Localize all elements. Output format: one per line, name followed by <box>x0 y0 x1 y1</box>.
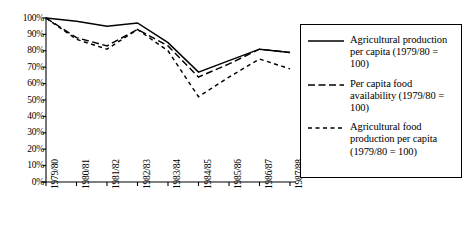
x-axis-tick-label: 1985/86 <box>233 159 243 189</box>
x-axis-tick-label: 1983/84 <box>172 159 182 189</box>
legend-swatch-long-dash <box>307 79 345 91</box>
x-axis-tick-label: 1984/85 <box>203 159 213 189</box>
legend-swatch-solid <box>307 35 345 47</box>
x-axis-tick-label: 1980/81 <box>81 159 91 189</box>
legend-entry: Agricultural production per capita (1979… <box>307 34 457 71</box>
x-axis-tick-label: 1986/87 <box>264 159 274 189</box>
x-axis-tick-label: 1982/83 <box>142 159 152 189</box>
chart-legend: Agricultural production per capita (1979… <box>300 24 462 178</box>
legend-label: Agricultural production per capita (1979… <box>350 34 457 71</box>
legend-swatch-short-dash <box>307 122 345 134</box>
x-axis-tick-label: 1979/80 <box>50 159 60 189</box>
chart-container: 100%90%80%70%60%50%40%30%20%10%0% 1979/8… <box>0 0 466 235</box>
legend-entry: Agricultural food production per capita … <box>307 121 457 158</box>
legend-label: Agricultural food production per capita … <box>350 121 457 158</box>
legend-entry: Per capita food availability (1979/80 = … <box>307 78 457 115</box>
legend-label: Per capita food availability (1979/80 = … <box>350 78 457 115</box>
x-axis-tick-label: 1981/82 <box>111 159 121 189</box>
